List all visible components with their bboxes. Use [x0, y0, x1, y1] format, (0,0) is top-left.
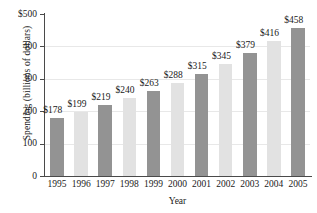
bar-value-label: $315	[188, 62, 207, 72]
y-tick-label: 300	[0, 74, 37, 84]
bar	[123, 98, 136, 176]
bar	[74, 112, 87, 176]
x-tick-label: 2005	[284, 180, 312, 190]
y-tick-label: 0	[0, 172, 37, 182]
bar-value-label: $345	[212, 52, 231, 62]
bar	[195, 74, 208, 176]
bar	[267, 41, 280, 176]
plot-area: $178$199$219$240$263$288$315$345$379$416…	[45, 14, 310, 176]
y-tick-label: 100	[0, 139, 37, 149]
bar	[171, 83, 184, 176]
bar-value-label: $219	[91, 93, 110, 103]
bar-value-label: $288	[164, 71, 183, 81]
bar-value-label: $240	[116, 86, 135, 96]
bar	[291, 28, 304, 176]
x-axis-line	[44, 176, 312, 177]
bar-value-label: $458	[284, 16, 303, 26]
y-tick-label: 400	[0, 42, 37, 52]
bar-chart: Spending (billions of dollars) 010020030…	[0, 0, 317, 213]
y-tick-label: 200	[0, 107, 37, 117]
bar-value-label: $178	[43, 106, 62, 116]
bar-value-label: $263	[140, 79, 159, 89]
bar-value-label: $379	[236, 41, 255, 51]
y-tick-mark	[40, 176, 45, 177]
y-tick-label: $500	[0, 10, 37, 20]
bar	[147, 91, 160, 176]
bar	[98, 105, 111, 176]
x-axis-title: Year	[45, 196, 310, 206]
bar	[50, 118, 63, 176]
bar-value-label: $199	[67, 100, 86, 110]
bar	[243, 53, 256, 176]
bar	[219, 64, 232, 176]
bar-value-label: $416	[260, 29, 279, 39]
